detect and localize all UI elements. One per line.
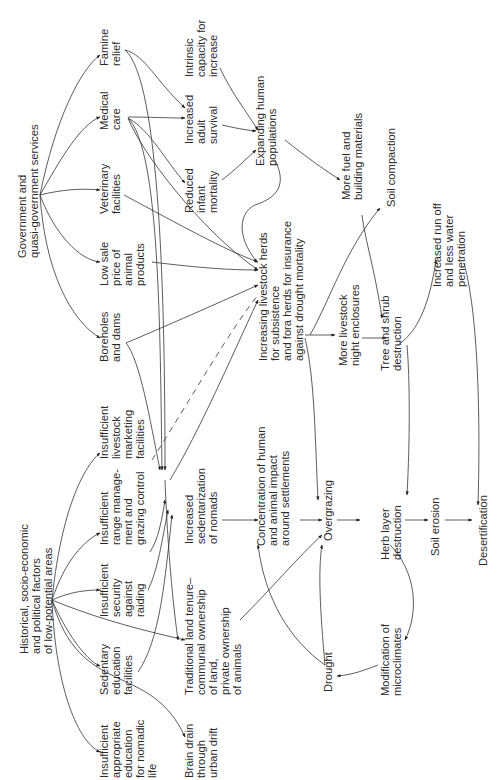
node-government-services: Government and quasi-government services <box>16 124 40 258</box>
svg-text:Modification of: Modification of <box>379 623 391 696</box>
svg-text:Overgrazing: Overgrazing <box>322 480 334 541</box>
svg-text:Historical, socio-economic: Historical, socio-economic <box>18 524 30 654</box>
edge-gov-famine <box>40 55 100 195</box>
svg-text:life: life <box>146 764 158 778</box>
svg-text:More fuel and: More fuel and <box>340 132 352 200</box>
svg-text:animal: animal <box>122 253 134 286</box>
svg-text:marketing: marketing <box>122 410 134 459</box>
edge-gov-lowsale <box>40 195 100 262</box>
svg-text:Concentration of human: Concentration of human <box>255 427 267 546</box>
svg-text:Increasing livestock herds: Increasing livestock herds <box>257 232 269 361</box>
edge-tenure-overgrazing <box>240 535 322 620</box>
edge-gov-vet <box>40 189 100 195</box>
svg-text:Increased: Increased <box>183 495 195 544</box>
node-increased-adult-survival: Increased adult survival <box>183 95 219 144</box>
svg-text:building materials: building materials <box>352 113 364 200</box>
svg-text:populations: populations <box>266 108 278 166</box>
svg-text:Insufficient: Insufficient <box>98 563 110 617</box>
svg-text:Insufficient: Insufficient <box>98 724 110 778</box>
svg-text:Low sale: Low sale <box>98 242 110 286</box>
edge-hist-appropriate <box>52 600 100 752</box>
edge-medical-adult <box>128 117 185 118</box>
nodes: Government and quasi-government services… <box>16 20 489 778</box>
svg-text:price of: price of <box>110 248 122 286</box>
svg-text:Insufficient: Insufficient <box>98 405 110 459</box>
edge-expanding-fuel <box>285 140 340 180</box>
svg-text:of nomads: of nomads <box>207 491 219 544</box>
svg-text:penetration: penetration <box>455 231 467 287</box>
svg-text:Insufficient: Insufficient <box>98 491 110 545</box>
node-expanding-populations: Expanding human populations <box>254 76 278 166</box>
node-brain-drain: Brain drain through urban drift <box>183 724 219 778</box>
svg-text:through: through <box>195 740 207 778</box>
svg-text:Herb layer: Herb layer <box>379 508 391 560</box>
svg-text:Increased run off: Increased run off <box>431 202 443 287</box>
node-increased-sedentarization: Increased sedentarization of nomads <box>183 468 219 544</box>
node-reduced-infant-mortality: Reduced infant mortality <box>183 168 219 213</box>
node-intrinsic-capacity: Intrinsic capacity for increase <box>183 20 219 77</box>
edge-runoff-desertification <box>464 263 479 505</box>
edge-hist-security <box>52 590 100 600</box>
node-appropriate-education: Insufficient appropriate education for n… <box>98 719 158 778</box>
svg-text:infant: infant <box>195 185 207 213</box>
svg-text:products: products <box>134 243 146 286</box>
svg-text:and less water: and less water <box>443 215 455 287</box>
edge-drought-overgrazing <box>320 545 325 665</box>
edge-hist-sedentary <box>52 600 100 666</box>
node-livestock-marketing: Insufficient livestock marketing facilit… <box>98 405 146 459</box>
node-medical-care: Medical care <box>98 91 122 130</box>
node-soil-erosion: Soil erosion <box>429 498 441 556</box>
svg-text:raiding: raiding <box>134 583 146 617</box>
svg-text:Soil erosion: Soil erosion <box>429 498 441 556</box>
svg-text:Traditional land tenure–: Traditional land tenure– <box>183 577 195 695</box>
svg-text:education: education <box>110 646 122 695</box>
svg-text:urban drift: urban drift <box>207 727 219 778</box>
svg-text:survival: survival <box>207 106 219 144</box>
svg-text:Sedentary: Sedentary <box>98 644 110 695</box>
svg-text:sedentarization: sedentarization <box>195 468 207 544</box>
edge-intrinsic-expanding <box>220 68 258 130</box>
svg-text:of land,: of land, <box>207 658 219 695</box>
edge-gov-boreholes <box>40 195 100 338</box>
node-concentration-impact: Concentration of human and animal impact… <box>255 427 291 546</box>
svg-text:More livestock: More livestock <box>337 294 349 366</box>
svg-text:against: against <box>122 580 134 617</box>
node-desertification: Desertification <box>477 495 489 566</box>
edge-range-sedentarization <box>150 500 165 552</box>
node-famine-relief: Famine relief <box>98 29 122 66</box>
svg-text:education: education <box>122 729 134 778</box>
flow-diagram: Government and quasi-government services… <box>0 0 503 780</box>
svg-text:Soil compaction: Soil compaction <box>385 128 397 207</box>
svg-text:grazing control: grazing control <box>134 472 146 545</box>
diagram-canvas: Government and quasi-government services… <box>0 0 503 780</box>
svg-text:livestock: livestock <box>110 416 122 459</box>
node-sedentary-education: Sedentary education facilities <box>98 644 134 695</box>
svg-text:Expanding human: Expanding human <box>254 76 266 166</box>
svg-text:Famine: Famine <box>98 29 110 66</box>
svg-text:microclimates: microclimates <box>391 627 403 696</box>
svg-text:security: security <box>110 578 122 617</box>
node-tree-shrub-destruction: Tree and shrub destruction <box>379 296 403 371</box>
node-low-sale-price: Low sale price of animal products <box>98 242 146 286</box>
node-veterinary-facilities: Veterinary facilities <box>98 163 122 214</box>
edge-adult-expanding <box>222 125 256 131</box>
svg-text:of animals: of animals <box>231 644 243 695</box>
edge-boreholes-herds <box>126 285 258 343</box>
edge-lowsale-herds <box>152 262 258 270</box>
node-soil-compaction: Soil compaction <box>385 128 397 207</box>
svg-text:for nomadic: for nomadic <box>134 719 146 778</box>
svg-text:against drought mortality: against drought mortality <box>293 238 305 361</box>
svg-text:communal ownership: communal ownership <box>195 589 207 695</box>
svg-text:increase: increase <box>207 35 219 77</box>
svg-text:of low-potential areas: of low-potential areas <box>42 547 54 654</box>
edge-herds-overgrazing <box>305 338 318 500</box>
svg-text:night enclosures: night enclosures <box>349 284 361 366</box>
svg-text:Veterinary: Veterinary <box>98 163 110 214</box>
svg-text:facilities: facilities <box>134 419 146 459</box>
svg-text:Desertification: Desertification <box>477 495 489 566</box>
svg-text:quasi-government services: quasi-government services <box>28 124 40 258</box>
node-night-enclosures: More livestock night enclosures <box>337 284 361 366</box>
svg-text:and animal impact: and animal impact <box>267 454 279 546</box>
node-modification-microclimates: Modification of microclimates <box>379 623 403 696</box>
node-boreholes-dams: Boreholes and dams <box>98 311 122 362</box>
